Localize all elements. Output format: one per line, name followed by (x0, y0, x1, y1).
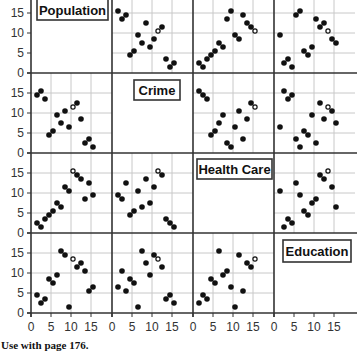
x-tick-label: 5 (129, 320, 136, 334)
y-tick-label: 0 (17, 66, 24, 80)
data-point (313, 16, 319, 22)
y-tick-label: 5 (17, 286, 24, 300)
scatterplot-matrix: PopulationCrimeHealth CareEducation05101… (0, 0, 359, 340)
data-point (196, 60, 202, 66)
data-point (200, 292, 206, 298)
data-point (240, 136, 246, 142)
data-point (54, 112, 60, 118)
data-point (167, 220, 173, 226)
data-point (196, 88, 202, 94)
data-point (46, 212, 52, 218)
data-point (333, 40, 339, 46)
data-point (277, 124, 283, 130)
data-point (90, 144, 96, 150)
panel-label-population: Population (37, 0, 108, 20)
x-tick-label: 0 (190, 320, 197, 334)
data-point (224, 268, 230, 274)
panel-population-vs-education (274, 0, 355, 73)
data-point (204, 296, 210, 302)
data-point (220, 44, 226, 50)
data-point (135, 188, 141, 194)
highlighted-point (156, 169, 160, 173)
data-point (147, 200, 153, 206)
x-tick-label: 5 (210, 320, 217, 334)
data-point (38, 300, 44, 306)
data-point (90, 284, 96, 290)
data-point (123, 288, 129, 294)
data-point (58, 248, 64, 254)
data-point (232, 304, 238, 310)
x-tick-label: 15 (246, 320, 260, 334)
data-point (240, 288, 246, 294)
panel-population-vs-health-care (193, 0, 274, 73)
y-tick-label: 10 (11, 266, 25, 280)
y-tick-label: 10 (11, 186, 25, 200)
data-point (321, 116, 327, 122)
data-point (74, 172, 80, 178)
data-point (46, 276, 52, 282)
data-point (66, 304, 72, 310)
data-point (119, 16, 125, 22)
data-point (321, 176, 327, 182)
data-point (50, 128, 56, 134)
data-point (236, 36, 242, 42)
panel-education-vs-crime (112, 233, 193, 313)
data-point (244, 20, 250, 26)
data-point (151, 252, 157, 258)
x-tick-label: 15 (84, 320, 98, 334)
data-point (301, 208, 307, 214)
x-tick-label: 10 (307, 320, 321, 334)
panel-label-health-care: Health Care (197, 159, 272, 179)
data-point (127, 276, 133, 282)
data-point (305, 212, 311, 218)
y-tick-label: 15 (11, 166, 25, 180)
data-point (208, 132, 214, 138)
data-point (131, 48, 137, 54)
data-point (236, 108, 242, 114)
data-point (82, 140, 88, 146)
data-point (297, 8, 303, 14)
data-point (163, 296, 169, 302)
data-point (212, 48, 218, 54)
data-point (78, 116, 84, 122)
data-point (281, 88, 287, 94)
data-point (159, 172, 165, 178)
highlighted-point (253, 29, 257, 33)
data-point (171, 300, 177, 306)
data-point (289, 64, 295, 70)
y-tick-label: 5 (17, 206, 24, 220)
variable-label: Population (39, 3, 106, 18)
data-point (143, 176, 149, 182)
data-point (248, 100, 254, 106)
data-point (78, 176, 84, 182)
highlighted-point (71, 257, 75, 261)
data-point (301, 128, 307, 134)
data-point (115, 192, 121, 198)
panel-label-education: Education (283, 240, 351, 262)
data-point (285, 56, 291, 62)
data-point (228, 8, 234, 14)
data-point (86, 288, 92, 294)
data-point (42, 96, 48, 102)
highlighted-point (71, 105, 75, 109)
data-point (224, 16, 230, 22)
data-point (329, 108, 335, 114)
data-point (86, 180, 92, 186)
footer-note: Use with page 176. (1, 339, 88, 351)
data-point (289, 92, 295, 98)
variable-label: Crime (139, 83, 176, 98)
data-point (147, 272, 153, 278)
data-point (50, 280, 56, 286)
data-point (42, 296, 48, 302)
data-point (236, 252, 242, 258)
data-point (62, 108, 68, 114)
data-point (115, 284, 121, 290)
data-point (212, 280, 218, 286)
data-point (123, 180, 129, 186)
data-point (317, 172, 323, 178)
y-tick-label: 15 (11, 6, 25, 20)
data-point (139, 204, 145, 210)
panel-education-vs-health-care (193, 233, 274, 313)
y-tick-label: 5 (17, 46, 24, 60)
y-tick-label: 10 (11, 26, 25, 40)
